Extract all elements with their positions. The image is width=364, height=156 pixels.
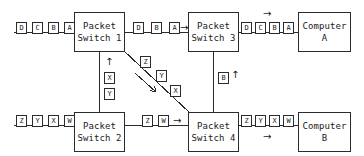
network-diagram: Packet Switch 1 Packet Switch 3 Computer… <box>0 0 364 156</box>
node-label-line2: Switch 3 <box>191 32 235 44</box>
node-label-line1: Packet <box>197 20 230 32</box>
arrow-right-icon-switch3-computerA: → <box>263 9 271 19</box>
packet-in-switch1-a[interactable]: A <box>64 22 75 34</box>
node-label-line1: Packet <box>83 120 116 132</box>
packet-s4cb-w[interactable]: W <box>283 115 294 127</box>
node-computer-a[interactable]: Computer A <box>298 12 351 52</box>
packet-s4cb-z[interactable]: Z <box>241 115 252 127</box>
packet-in-switch2-y[interactable]: Y <box>32 115 43 127</box>
packet-s3ca-a[interactable]: A <box>283 22 294 34</box>
packet-s1s3-d[interactable]: D <box>133 22 144 34</box>
node-label-line2: B <box>322 132 328 144</box>
node-label-line1: Packet <box>197 120 230 132</box>
packet-s1s3-a[interactable]: A <box>169 22 180 34</box>
node-packet-switch-1[interactable]: Packet Switch 1 <box>74 12 125 52</box>
packet-s1s4-z[interactable]: Z <box>140 56 151 68</box>
node-packet-switch-2[interactable]: Packet Switch 2 <box>74 112 125 152</box>
arrow-up-icon-switch2-switch1: ↑ <box>105 57 113 67</box>
node-label-line2: Switch 2 <box>77 132 121 144</box>
node-label-line2: A <box>322 32 328 44</box>
packet-s1s4-y[interactable]: Y <box>156 70 167 82</box>
packet-in-switch1-c[interactable]: C <box>32 22 43 34</box>
node-label-line2: Switch 4 <box>191 132 235 144</box>
node-packet-switch-4[interactable]: Packet Switch 4 <box>188 112 239 152</box>
packet-s4cb-y[interactable]: Y <box>255 115 266 127</box>
node-label-line1: Computer <box>302 120 346 132</box>
packet-in-switch2-x[interactable]: X <box>48 115 59 127</box>
node-label-line1: Computer <box>302 20 346 32</box>
packet-s3s4-b[interactable]: B <box>218 72 229 84</box>
packet-s1s4-x[interactable]: X <box>170 85 181 97</box>
node-label-line1: Packet <box>83 20 116 32</box>
packet-s1s2-y[interactable]: Y <box>104 88 115 100</box>
packet-in-switch1-b[interactable]: B <box>48 22 59 34</box>
arrow-right-icon-switch4-computerB: → <box>263 132 271 142</box>
packet-s2s4-w[interactable]: W <box>158 115 169 127</box>
packet-s3ca-b[interactable]: B <box>269 22 280 34</box>
packet-s3ca-d[interactable]: D <box>241 22 252 34</box>
packet-in-switch2-z[interactable]: Z <box>16 115 27 127</box>
packet-in-switch2-w[interactable]: W <box>64 115 75 127</box>
arrow-right-icon-switch2-switch4: → <box>173 116 181 126</box>
packet-s1s2-x[interactable]: X <box>104 72 115 84</box>
arrow-right-icon-switch1-switch3: → <box>180 23 188 33</box>
arrow-up-icon-switch4-switch3: ↑ <box>231 70 239 80</box>
diagonal-arrow-head <box>150 86 156 92</box>
node-label-line2: Switch 1 <box>77 32 121 44</box>
diagonal-arrow-shaft <box>135 73 156 92</box>
node-packet-switch-3[interactable]: Packet Switch 3 <box>188 12 239 52</box>
packet-s3ca-c[interactable]: C <box>255 22 266 34</box>
packet-in-switch1-d[interactable]: D <box>16 22 27 34</box>
packet-s2s4-z[interactable]: Z <box>142 115 153 127</box>
node-computer-b[interactable]: Computer B <box>298 112 351 152</box>
packet-s4cb-x[interactable]: X <box>269 115 280 127</box>
packet-s1s3-b[interactable]: B <box>151 22 162 34</box>
